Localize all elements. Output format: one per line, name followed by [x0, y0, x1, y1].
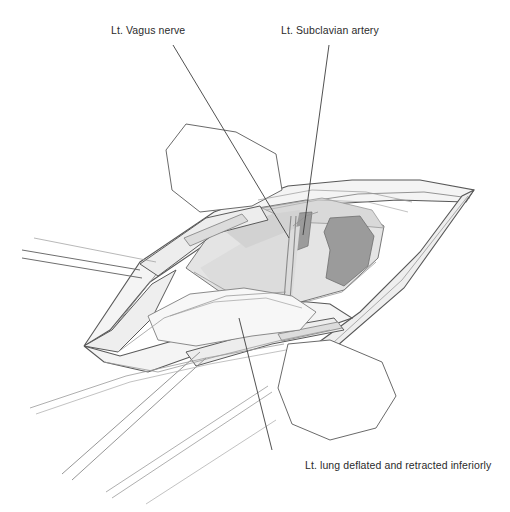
retractor-arm-left-lower-d — [112, 392, 272, 498]
anatomical-illustration-canvas — [0, 0, 510, 512]
retractor-arm-left-lower-b — [72, 358, 206, 480]
retractor-arm-left-upper-b — [22, 258, 142, 278]
retractor-arm-left-lower — [62, 352, 200, 474]
label-lt-lung-deflated: Lt. lung deflated and retracted inferior… — [305, 459, 491, 472]
lt-subclavian-artery — [324, 216, 374, 286]
illustration-figure: Lt. Vagus nerve Lt. Subclavian artery Lt… — [0, 0, 510, 512]
retractor-arm-left-lower-c — [106, 386, 268, 492]
retractor-arm-left-upper — [22, 250, 140, 270]
label-lt-vagus-nerve: Lt. Vagus nerve — [111, 24, 185, 37]
surgical-drape-lower-right — [278, 340, 396, 440]
label-lt-subclavian-artery: Lt. Subclavian artery — [281, 24, 379, 37]
retractor-arm-left-upper-c — [34, 238, 156, 262]
